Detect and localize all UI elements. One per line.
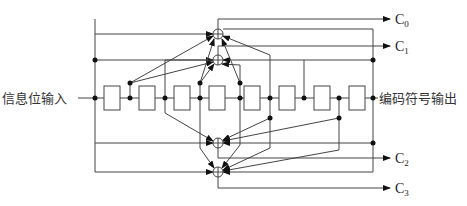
xor-adder-c2 xyxy=(213,138,223,148)
junction-dots xyxy=(93,58,376,146)
register-3 xyxy=(174,86,190,110)
register-2 xyxy=(139,86,155,110)
xor-adder-c3 xyxy=(213,167,223,177)
register-6 xyxy=(279,86,295,110)
register-5 xyxy=(244,86,260,110)
xor-adder-c1 xyxy=(213,55,223,65)
output-label: 编码符号输出 xyxy=(379,91,457,106)
input-label: 信息位输入 xyxy=(2,91,67,106)
frame-rows xyxy=(95,29,373,172)
xor-adder-c0 xyxy=(213,29,223,39)
output-c3: C3 xyxy=(395,181,409,198)
output-c1: C1 xyxy=(395,39,409,56)
register-8 xyxy=(349,86,365,110)
frame-lines xyxy=(95,19,373,172)
output-c2: C2 xyxy=(395,151,409,168)
convolutional-encoder-diagram: 信息位输入 编码符号输出 xyxy=(0,0,467,206)
tap-connections xyxy=(130,36,339,171)
register-7 xyxy=(314,86,330,110)
register-1 xyxy=(104,86,120,110)
output-c0: C0 xyxy=(395,12,409,29)
register-4 xyxy=(209,86,225,110)
